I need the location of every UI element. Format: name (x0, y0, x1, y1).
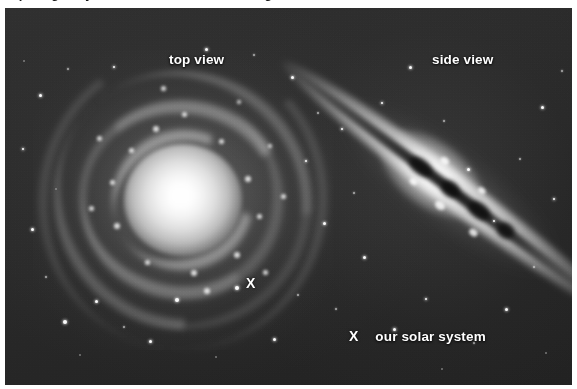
solar-system-marker-top-view: X (246, 276, 255, 290)
label-top-view: top view (169, 52, 224, 67)
solar-system-legend: X our solar system (349, 329, 486, 344)
label-our-solar-system: our solar system (375, 329, 485, 344)
figure-page: a spiral galaxy seen from two different … (0, 0, 577, 389)
clipped-caption-text: a spiral galaxy seen from two different … (0, 0, 291, 1)
clipped-caption-above-figure: a spiral galaxy seen from two different … (0, 0, 577, 6)
label-side-view: side view (432, 52, 493, 67)
solar-system-marker-side-view: X (349, 329, 358, 343)
galaxy-photograph: top view side view X X our solar system (5, 8, 572, 385)
